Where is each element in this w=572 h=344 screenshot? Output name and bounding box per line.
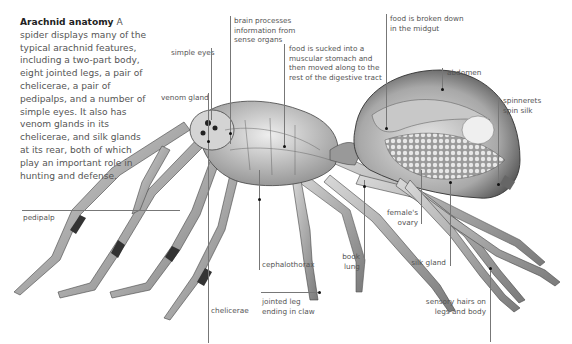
leader-dot bbox=[283, 145, 286, 148]
label-stomach-line2: muscular stomach and bbox=[289, 54, 382, 64]
leader-line bbox=[386, 14, 387, 128]
leader-line bbox=[230, 16, 231, 144]
leader-line bbox=[490, 268, 491, 342]
leader-dot bbox=[449, 181, 452, 184]
leader-line bbox=[208, 93, 209, 343]
label-jointed-leg-line1: jointed leg bbox=[262, 297, 315, 307]
leader-line bbox=[211, 48, 212, 120]
leader-dot bbox=[207, 140, 210, 143]
label-brain: brain processes information from sense o… bbox=[234, 16, 295, 45]
leader-line bbox=[498, 96, 499, 184]
label-jointed-leg-line2: ending in claw bbox=[262, 307, 315, 317]
label-stomach-line1: food is sucked into a bbox=[289, 44, 382, 54]
leader-line bbox=[450, 182, 451, 266]
label-ovary-line2: ovary bbox=[380, 218, 418, 228]
label-jointed-leg: jointed leg ending in claw bbox=[262, 297, 315, 316]
leader-dot bbox=[363, 185, 366, 188]
leader-dot bbox=[441, 88, 444, 91]
leader-line bbox=[261, 292, 319, 293]
leader-line bbox=[364, 180, 365, 264]
intro-paragraph: Arachnid anatomy A spider displays many … bbox=[20, 16, 150, 182]
label-brain-line3: sense organs bbox=[234, 35, 295, 45]
leader-line bbox=[284, 44, 285, 146]
label-simple-eyes: simple eyes bbox=[171, 48, 215, 58]
leader-dot bbox=[489, 267, 492, 270]
leader-line bbox=[22, 210, 180, 211]
label-sensory-hairs: sensory hairs on legs and body bbox=[420, 297, 486, 316]
label-brain-line1: brain processes bbox=[234, 16, 295, 26]
label-midgut: food is broken down in the midgut bbox=[390, 14, 464, 33]
label-stomach-line3: then moved along to the bbox=[289, 63, 382, 73]
label-abdomen: abdomen bbox=[447, 68, 481, 78]
label-book-lung: book lung bbox=[338, 252, 360, 271]
leader-line bbox=[259, 170, 260, 270]
label-spinnerets-line2: spin silk bbox=[503, 106, 541, 116]
label-stomach-line4: rest of the digestive tract bbox=[289, 73, 382, 83]
leader-dot bbox=[258, 198, 261, 201]
label-chelicerae: chelicerae bbox=[211, 306, 249, 316]
label-venom-gland: venom gland bbox=[161, 93, 209, 103]
label-stomach: food is sucked into a muscular stomach a… bbox=[289, 44, 382, 82]
leader-dot bbox=[385, 127, 388, 130]
leader-line bbox=[442, 68, 443, 90]
intro-body: A spider displays many of the typical ar… bbox=[20, 17, 146, 181]
label-brain-line2: information from bbox=[234, 26, 295, 36]
label-pedipalp: pedipalp bbox=[23, 213, 55, 223]
label-silk-gland: silk gland bbox=[400, 258, 446, 268]
intro-title: Arachnid anatomy bbox=[20, 17, 114, 27]
leader-dot bbox=[229, 132, 232, 135]
label-spinnerets: spinnerets spin silk bbox=[503, 96, 541, 115]
leader-line bbox=[421, 170, 422, 224]
label-midgut-line1: food is broken down bbox=[390, 14, 464, 24]
label-midgut-line2: in the midgut bbox=[390, 24, 464, 34]
label-ovary: female's ovary bbox=[380, 208, 418, 227]
leader-dot bbox=[497, 183, 500, 186]
leader-dot bbox=[318, 291, 321, 294]
head-shape bbox=[190, 110, 234, 150]
label-book-lung-line1: book bbox=[338, 252, 360, 262]
label-cephalothorax: cephalothorax bbox=[262, 260, 314, 270]
label-sensory-line2: legs and body bbox=[420, 307, 486, 317]
label-sensory-line1: sensory hairs on bbox=[420, 297, 486, 307]
label-ovary-line1: female's bbox=[380, 208, 418, 218]
label-book-lung-line2: lung bbox=[338, 262, 360, 272]
label-spinnerets-line1: spinnerets bbox=[503, 96, 541, 106]
